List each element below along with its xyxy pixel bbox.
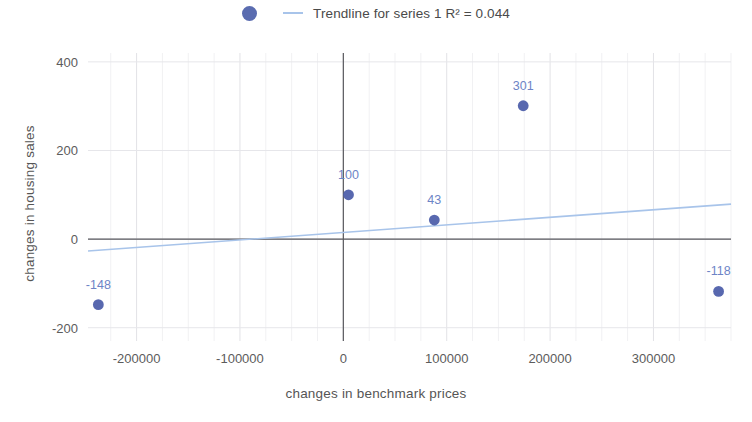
x-tick-label: -200000	[113, 351, 161, 366]
scatter-chart: Trendline for series 1 R² = 0.044 -20002…	[0, 0, 752, 422]
point-value-label: -148	[86, 278, 111, 292]
x-tick-label: 0	[340, 351, 347, 366]
data-points	[93, 100, 724, 310]
point-value-label: 301	[513, 79, 534, 93]
axis-lines	[88, 53, 731, 341]
y-tick-label: 400	[20, 54, 78, 69]
point-value-label: -118	[707, 264, 731, 278]
point-value-label: 43	[427, 193, 441, 207]
point-value-label: 100	[338, 168, 359, 182]
x-tick-label: 300000	[632, 351, 675, 366]
y-tick-label: -200	[20, 320, 78, 335]
gridlines	[88, 53, 731, 341]
x-tick-label: 200000	[528, 351, 571, 366]
x-tick-label: -100000	[216, 351, 264, 366]
x-tick-label: 100000	[425, 351, 468, 366]
y-axis-title: changes in housing sales	[22, 89, 37, 319]
trendline	[88, 204, 731, 251]
x-axis-title: changes in benchmark prices	[0, 386, 752, 401]
